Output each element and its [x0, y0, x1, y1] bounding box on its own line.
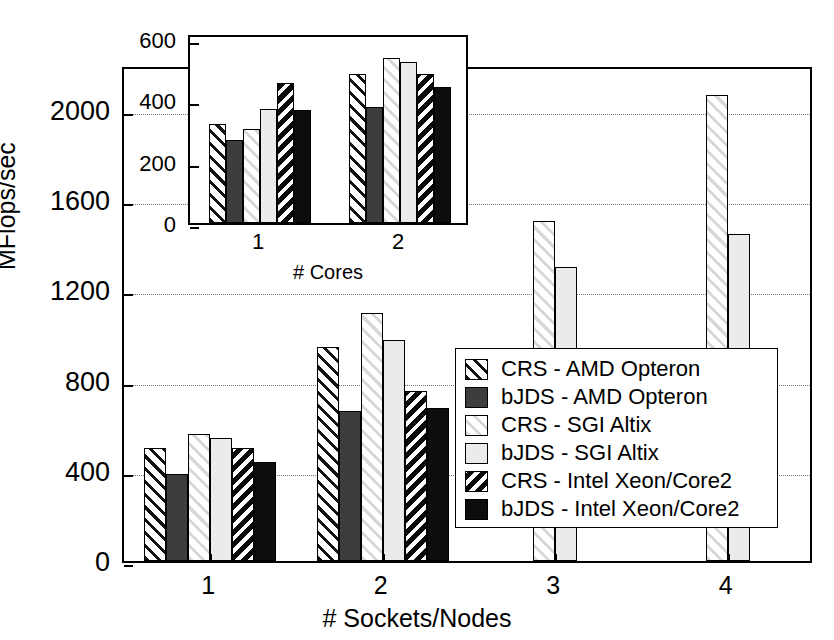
bar [144, 448, 166, 561]
x-tick-mark [728, 554, 730, 561]
inset-bar [243, 129, 260, 223]
legend-swatch-icon [465, 499, 488, 520]
bar [361, 313, 383, 561]
bar [188, 434, 210, 561]
inset-y-tick-label: 0 [116, 214, 176, 236]
inset-y-tick-label: 400 [116, 91, 176, 113]
legend-item: CRS - AMD Opteron [456, 355, 777, 383]
y-tick-mark [124, 204, 133, 206]
legend-swatch-icon [465, 415, 488, 436]
legend-item: bJDS - Intel Xeon/Core2 [456, 495, 777, 523]
inset-bar [226, 140, 243, 223]
inset-x-tick-label: 2 [373, 229, 423, 255]
legend-item-label: CRS - SGI Altix [501, 414, 651, 436]
inset-bar [434, 87, 451, 223]
inset-x-tick-label: 1 [233, 229, 283, 255]
figure-bar-chart: 0400800120016002000 1234 MFlops/sec # So… [0, 0, 834, 640]
x-axis-title: # Sockets/Nodes [0, 604, 834, 633]
legend-swatch-icon [465, 471, 488, 492]
y-tick-label: 2000 [0, 98, 110, 125]
bar [427, 408, 449, 561]
bar [405, 391, 427, 561]
inset-y-tick-label: 600 [116, 30, 176, 52]
y-axis-title: MFlops/sec [0, 142, 21, 270]
legend-box: CRS - AMD OpteronbJDS - AMD OpteronCRS -… [455, 348, 778, 528]
y-tick-label: 0 [0, 549, 110, 576]
inset-y-tick-mark [190, 166, 199, 168]
y-tick-mark [124, 385, 133, 387]
bar [232, 448, 254, 561]
x-tick-label: 2 [351, 571, 411, 600]
bar [339, 411, 361, 561]
x-tick-mark [555, 554, 557, 561]
bar [210, 438, 232, 561]
inset-bar [366, 107, 383, 223]
inset-bar [417, 74, 434, 223]
x-tick-label: 3 [523, 571, 583, 600]
y-tick-mark [124, 565, 133, 567]
y-tick-label: 400 [0, 459, 110, 486]
inset-bar [349, 74, 366, 223]
inset-bar [260, 109, 277, 223]
y-tick-mark [124, 294, 133, 296]
y-tick-label: 800 [0, 369, 110, 396]
inset-y-tick-mark [190, 43, 199, 45]
bar [166, 474, 188, 561]
y-tick-mark [124, 114, 133, 116]
legend-item-label: CRS - Intel Xeon/Core2 [501, 470, 732, 492]
inset-x-axis-title: # Cores [188, 261, 468, 284]
inset-bar [400, 62, 417, 223]
legend-item: CRS - SGI Altix [456, 411, 777, 439]
legend-item-label: bJDS - Intel Xeon/Core2 [501, 498, 739, 520]
legend-item-label: bJDS - SGI Altix [501, 442, 659, 464]
inset-bar [209, 124, 226, 223]
inset-bar [294, 110, 311, 223]
legend-item: bJDS - AMD Opteron [456, 383, 777, 411]
x-tick-mark [210, 554, 212, 561]
y-tick-mark [124, 475, 133, 477]
legend-item: bJDS - SGI Altix [456, 439, 777, 467]
legend-item-label: bJDS - AMD Opteron [501, 386, 708, 408]
inset-bar [277, 83, 294, 223]
x-tick-label: 1 [178, 571, 238, 600]
inset-y-tick-mark [190, 227, 199, 229]
legend-item: CRS - Intel Xeon/Core2 [456, 467, 777, 495]
bar [383, 340, 405, 561]
bar [317, 347, 339, 561]
legend-swatch-icon [465, 387, 488, 408]
legend-item-label: CRS - AMD Opteron [501, 358, 700, 380]
bar [254, 462, 276, 561]
y-tick-label: 1200 [0, 278, 110, 305]
inset-plot-area [188, 35, 468, 225]
x-tick-mark [383, 554, 385, 561]
legend-swatch-icon [465, 443, 488, 464]
inset-bar [383, 58, 400, 223]
x-tick-label: 4 [696, 571, 756, 600]
inset-y-tick-label: 200 [116, 153, 176, 175]
inset-y-tick-mark [190, 104, 199, 106]
legend-swatch-icon [465, 359, 488, 380]
